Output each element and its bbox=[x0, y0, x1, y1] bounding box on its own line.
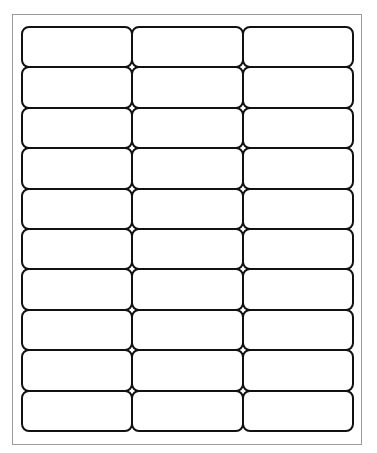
label-r3-c2[interactable] bbox=[131, 107, 243, 149]
label-r8-c3[interactable] bbox=[242, 309, 354, 351]
label-r2-c2[interactable] bbox=[131, 66, 243, 108]
label-r8-c1[interactable] bbox=[21, 309, 133, 351]
label-r2-c1[interactable] bbox=[21, 66, 133, 108]
label-r4-c1[interactable] bbox=[21, 147, 133, 189]
label-r7-c3[interactable] bbox=[242, 268, 354, 310]
label-r4-c3[interactable] bbox=[242, 147, 354, 189]
label-r9-c2[interactable] bbox=[131, 349, 243, 391]
label-r7-c2[interactable] bbox=[131, 268, 243, 310]
label-r3-c1[interactable] bbox=[21, 107, 133, 149]
label-r6-c1[interactable] bbox=[21, 228, 133, 270]
label-r5-c1[interactable] bbox=[21, 188, 133, 230]
label-r1-c1[interactable] bbox=[21, 26, 133, 68]
label-r9-c3[interactable] bbox=[242, 349, 354, 391]
label-r7-c1[interactable] bbox=[21, 268, 133, 310]
label-r5-c2[interactable] bbox=[131, 188, 243, 230]
label-r1-c3[interactable] bbox=[242, 26, 354, 68]
label-r8-c2[interactable] bbox=[131, 309, 243, 351]
label-r4-c2[interactable] bbox=[131, 147, 243, 189]
label-r2-c3[interactable] bbox=[242, 66, 354, 108]
label-grid bbox=[22, 27, 353, 431]
label-r6-c2[interactable] bbox=[131, 228, 243, 270]
label-r10-c1[interactable] bbox=[21, 390, 133, 432]
label-r1-c2[interactable] bbox=[131, 26, 243, 68]
label-r3-c3[interactable] bbox=[242, 107, 354, 149]
label-r10-c3[interactable] bbox=[242, 390, 354, 432]
label-r5-c3[interactable] bbox=[242, 188, 354, 230]
label-r6-c3[interactable] bbox=[242, 228, 354, 270]
label-r10-c2[interactable] bbox=[131, 390, 243, 432]
label-r9-c1[interactable] bbox=[21, 349, 133, 391]
